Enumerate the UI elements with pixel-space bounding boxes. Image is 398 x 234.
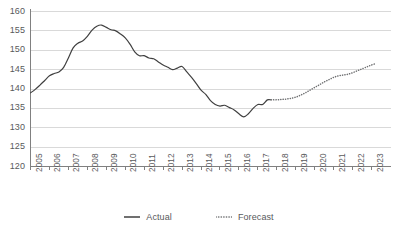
x-tick-label: 2005 [35, 153, 44, 172]
y-tick-label: 125 [1, 141, 25, 151]
x-tick-label: 2009 [110, 153, 119, 172]
y-tick-label: 150 [1, 44, 25, 54]
x-tick-label: 2007 [72, 153, 81, 172]
x-tick-label: 2023 [376, 153, 385, 172]
legend-swatch-solid-icon [124, 213, 140, 221]
x-tick-label: 2017 [262, 153, 271, 172]
series-line-forecast [271, 63, 376, 99]
x-tick-label: 2020 [319, 153, 328, 172]
y-tick-label: 140 [1, 83, 25, 93]
legend-item-actual[interactable]: Actual [124, 212, 172, 222]
x-tick-label: 2022 [357, 153, 366, 172]
data-series [31, 25, 377, 117]
y-tick-label: 135 [1, 102, 25, 112]
line-chart: 120125130135140145150155160 200520062007… [0, 0, 398, 234]
y-tick-label: 145 [1, 64, 25, 74]
x-tick-label: 2014 [205, 153, 214, 172]
legend-label: Actual [146, 212, 172, 222]
legend-swatch-dotted-icon [216, 213, 232, 221]
chart-legend: ActualForecast [0, 205, 398, 229]
plot-canvas [0, 0, 398, 234]
x-tick-label: 2016 [243, 153, 252, 172]
x-tick-label: 2006 [53, 153, 62, 172]
x-tick-label: 2019 [300, 153, 309, 172]
x-tick-label: 2008 [91, 153, 100, 172]
legend-label: Forecast [238, 212, 274, 222]
y-tick-label: 160 [1, 6, 25, 16]
x-tick-label: 2013 [186, 153, 195, 172]
x-tick-label: 2011 [148, 153, 157, 171]
x-tick-label: 2015 [224, 153, 233, 172]
x-tick-label: 2021 [338, 153, 347, 172]
y-tick-label: 155 [1, 25, 25, 35]
legend-item-forecast[interactable]: Forecast [216, 212, 274, 222]
y-tick-label: 120 [1, 161, 25, 171]
gridlines [31, 12, 391, 167]
x-tick-label: 2010 [129, 153, 138, 172]
series-line-actual [31, 25, 272, 117]
x-tick-label: 2012 [167, 153, 176, 172]
x-tick-label: 2018 [281, 153, 290, 172]
y-tick-label: 130 [1, 122, 25, 132]
